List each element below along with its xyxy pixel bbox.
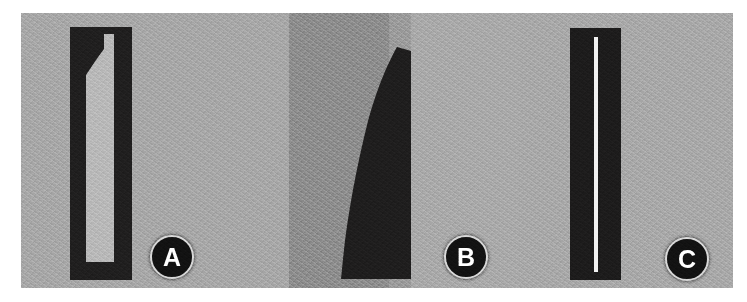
- panel-label-text-a: A: [163, 245, 181, 270]
- figure-container: A B C: [0, 0, 747, 302]
- panel-a: A: [21, 13, 289, 288]
- specimen-a-channel: [70, 27, 132, 280]
- specimen-b-blade: [339, 47, 413, 283]
- specimen-c-line: [594, 37, 598, 272]
- panel-c: C: [519, 13, 733, 288]
- figure-plate: A B C: [21, 13, 733, 288]
- panel-label-text-b: B: [457, 245, 475, 270]
- panel-label-badge-b: B: [444, 235, 488, 279]
- panel-label-badge-a: A: [150, 235, 194, 279]
- panel-label-text-c: C: [678, 247, 696, 272]
- panel-label-badge-c: C: [665, 237, 709, 281]
- panel-b: B: [289, 13, 519, 288]
